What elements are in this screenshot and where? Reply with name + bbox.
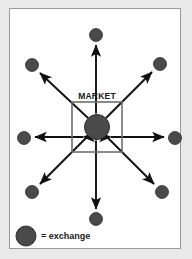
exchange-node-s bbox=[90, 213, 103, 226]
exchange-node-e bbox=[169, 132, 182, 145]
exchange-node-w bbox=[18, 132, 31, 145]
diagram-canvas: MARKET = exchange bbox=[0, 0, 192, 259]
market-hub-circle bbox=[85, 115, 110, 140]
exchange-node-nw bbox=[26, 59, 39, 72]
connector-market-to-exchange-sw bbox=[40, 136, 88, 184]
exchange-node-sw bbox=[26, 186, 39, 199]
legend-exchange-icon bbox=[16, 226, 36, 246]
market-exchange-diagram: MARKET = exchange bbox=[0, 0, 192, 259]
connector-market-to-exchange-se bbox=[106, 136, 154, 184]
exchange-node-n bbox=[90, 29, 103, 42]
exchange-node-ne bbox=[154, 58, 167, 71]
exchange-node-se bbox=[156, 186, 169, 199]
market-box-label: MARKET bbox=[78, 91, 116, 101]
legend: = exchange bbox=[16, 226, 90, 246]
legend-label: = exchange bbox=[41, 231, 90, 241]
